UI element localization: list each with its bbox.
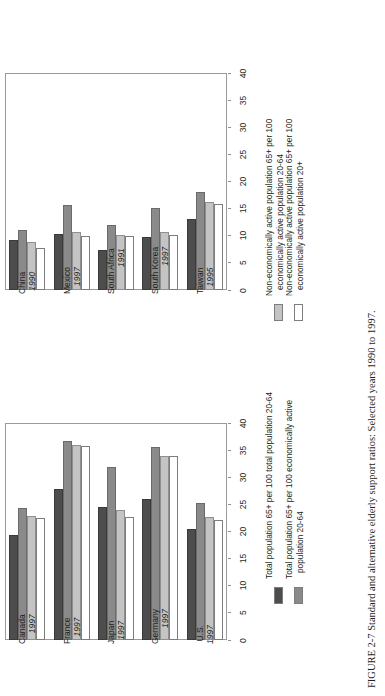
axis-tick-mark — [228, 181, 231, 182]
bar-group — [9, 423, 45, 640]
category-label: South Korea1997 — [150, 247, 170, 294]
bar — [196, 503, 205, 640]
bar — [36, 248, 45, 290]
category-label: Canada1997 — [17, 614, 37, 644]
bar — [125, 517, 134, 640]
legend-label: Non-economically active population 65+ p… — [264, 119, 285, 296]
axis-tick-label: 20 — [239, 171, 248, 193]
category-year: 1995 — [205, 268, 215, 294]
bar — [125, 236, 134, 290]
axis-tick-label: 0 — [239, 279, 248, 301]
legend-label-line1: Non-economically active population 65+ p… — [264, 119, 275, 296]
axis-tick-mark — [228, 640, 231, 641]
category-year: 1991 — [116, 248, 126, 294]
axis-tick-mark — [228, 235, 231, 236]
legend-label-line2: population 20-64 — [295, 400, 306, 579]
category-name: Germany — [150, 609, 160, 644]
category-name: Canada — [17, 614, 27, 644]
category-year: 1997 — [160, 247, 170, 294]
axis-tick-label: 20 — [239, 521, 248, 543]
axis-tick-label: 5 — [239, 602, 248, 624]
axis-tick-label: 35 — [239, 439, 248, 461]
axis-tick-label: 35 — [239, 89, 248, 111]
category-label: China1990 — [17, 272, 37, 294]
legend-label-line1: Total population 65+ per 100 economicall… — [284, 400, 295, 579]
category-year: 1997 — [27, 614, 37, 644]
bar-group — [187, 73, 223, 290]
axis-tick-label: 5 — [239, 252, 248, 274]
bar-group — [98, 423, 134, 640]
bar — [205, 517, 214, 640]
category-year: 1997 — [72, 618, 82, 644]
axis-tick-mark — [228, 450, 231, 451]
axis-tick-mark — [228, 558, 231, 559]
chart-panel-developed — [5, 423, 227, 640]
bar-group — [187, 423, 223, 640]
category-name: Mexico — [62, 267, 72, 294]
legend-label: Total population 65+ per 100 total popul… — [264, 392, 275, 579]
bar — [72, 445, 81, 640]
axis-tick-label: 15 — [239, 548, 248, 570]
category-name: France — [62, 618, 72, 644]
axis-tick-label: 10 — [239, 225, 248, 247]
figure-number: FIGURE 2-7 — [366, 633, 377, 688]
category-label: Germany1997 — [150, 609, 170, 644]
axis-tick-mark — [228, 73, 231, 74]
category-year: 1997 — [160, 609, 170, 644]
legend-swatch — [274, 587, 283, 604]
figure-caption-text: Standard and alternative elderly support… — [366, 310, 377, 630]
legend-swatch — [294, 304, 303, 321]
category-label: U.S.1997 — [195, 625, 215, 644]
category-name: South Korea — [150, 247, 160, 294]
axis-tick-label: 30 — [239, 116, 248, 138]
figure-caption: FIGURE 2-7 Standard and alternative elde… — [366, 310, 377, 688]
category-name: U.S. — [195, 625, 205, 644]
bar-group — [54, 423, 90, 640]
bar — [214, 204, 223, 290]
category-name: South Africa — [106, 248, 116, 294]
axis-tick-mark — [228, 423, 231, 424]
category-year: 1997 — [116, 621, 126, 644]
bar — [187, 529, 196, 640]
category-name: Japan — [106, 621, 116, 644]
axis-tick-mark — [228, 504, 231, 505]
category-name: Taiwan — [195, 268, 205, 294]
category-year: 1997 — [72, 267, 82, 294]
axis-tick-mark — [228, 208, 231, 209]
bar-group — [142, 423, 178, 640]
axis-tick-mark — [228, 127, 231, 128]
axis-tick-label: 0 — [239, 629, 248, 651]
bar — [81, 446, 90, 640]
legend-swatch — [294, 587, 303, 604]
bar — [169, 456, 178, 640]
axis-tick-mark — [228, 262, 231, 263]
axis-tick-mark — [228, 290, 231, 291]
axis-tick-label: 25 — [239, 143, 248, 165]
category-label: South Africa1991 — [106, 248, 126, 294]
axis-tick-mark — [228, 531, 231, 532]
legend-label: Non-economically active population 65+ p… — [284, 119, 305, 296]
axis-tick-label: 10 — [239, 575, 248, 597]
category-year: 1997 — [205, 625, 215, 644]
legend-label: Total population 65+ per 100 economicall… — [284, 400, 305, 579]
axis-tick-label: 30 — [239, 466, 248, 488]
bar — [214, 520, 223, 640]
category-label: France1997 — [62, 618, 82, 644]
axis-tick-mark — [228, 585, 231, 586]
axis-tick-label: 40 — [239, 62, 248, 84]
axis-tick-label: 15 — [239, 198, 248, 220]
category-label: Taiwan1995 — [195, 268, 215, 294]
legend-label-line1: Non-economically active population 65+ p… — [284, 119, 295, 296]
axis-tick-mark — [228, 477, 231, 478]
legend-label-line2: economically active population 20+ — [295, 119, 306, 296]
bar — [63, 441, 72, 640]
bar — [169, 235, 178, 290]
bar-group — [54, 73, 90, 290]
category-name: China — [17, 272, 27, 294]
axis-tick-label: 40 — [239, 412, 248, 434]
category-label: Mexico1997 — [62, 267, 82, 294]
axis-tick-mark — [228, 612, 231, 613]
bar-group — [9, 73, 45, 290]
category-label: Japan1997 — [106, 621, 126, 644]
bar — [107, 467, 116, 640]
